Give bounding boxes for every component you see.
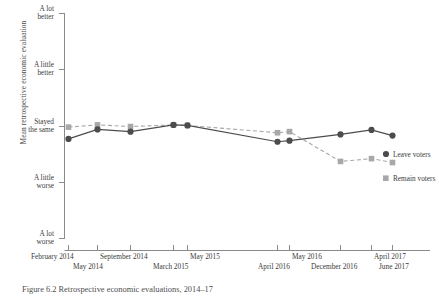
x-tick-label-march-2015: March 2015 bbox=[153, 263, 188, 272]
data-point bbox=[128, 124, 134, 130]
series-line bbox=[69, 125, 393, 142]
data-point bbox=[127, 129, 133, 135]
figure-container: Mean retrospective economic evaluation bbox=[0, 0, 439, 296]
x-tick-label-june-2017: June 2017 bbox=[379, 263, 409, 272]
x-tick-label-december-2016: December 2016 bbox=[311, 263, 357, 272]
x-tick-label-april-2017: April 2017 bbox=[374, 253, 406, 262]
legend-marker-remain bbox=[383, 175, 389, 181]
figure-caption: Figure 6.2 Retrospective economic evalua… bbox=[22, 285, 422, 294]
data-point bbox=[275, 130, 281, 136]
data-point bbox=[286, 138, 292, 144]
series-remain-voters bbox=[66, 122, 396, 165]
x-tick-label-may-2016: May 2016 bbox=[292, 253, 322, 262]
data-point bbox=[66, 124, 72, 130]
data-point bbox=[369, 156, 375, 162]
x-tick-label-september-2014: September 2014 bbox=[100, 253, 148, 262]
data-point bbox=[389, 132, 395, 138]
legend-label-remain-voters: Remain voters bbox=[393, 174, 435, 183]
y-tick-label-a-little-worse: A littleworse bbox=[0, 174, 54, 191]
data-point bbox=[94, 126, 100, 132]
x-tick-label-april-2016: April 2016 bbox=[258, 263, 290, 272]
x-tick-label-may-2015: May 2015 bbox=[190, 253, 220, 262]
y-tick-label-a-lot-better: A lotbetter bbox=[0, 5, 54, 22]
x-tick-label-february-2014: February 2014 bbox=[31, 253, 74, 262]
y-axis-ticks bbox=[59, 14, 65, 239]
data-point bbox=[368, 127, 374, 133]
legend-label-leave-voters: Leave voters bbox=[393, 150, 430, 159]
data-point bbox=[390, 160, 396, 166]
legend-marker-leave bbox=[383, 151, 389, 157]
data-point bbox=[184, 122, 190, 128]
data-point bbox=[274, 139, 280, 145]
data-point bbox=[65, 136, 71, 142]
y-tick-label-a-little-better: A littlebetter bbox=[0, 61, 54, 78]
y-tick-label-a-lot-worse: A lotworse bbox=[0, 230, 54, 247]
data-point bbox=[287, 129, 293, 135]
data-point bbox=[337, 131, 343, 137]
data-point bbox=[338, 159, 344, 165]
x-tick-label-may-2014: May 2014 bbox=[73, 263, 103, 272]
y-tick-label-stayed-the-same: Stayedthe same bbox=[0, 118, 54, 135]
x-axis-ticks bbox=[69, 245, 393, 251]
data-point bbox=[170, 122, 176, 128]
